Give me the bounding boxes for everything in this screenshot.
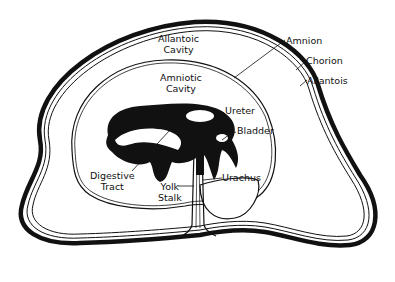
label-allantois: Allantois bbox=[307, 75, 348, 86]
label-urachus: Urachus bbox=[222, 172, 261, 183]
bladder-shape bbox=[186, 110, 214, 122]
allantois-sac bbox=[200, 178, 259, 219]
label-bladder: Bladder bbox=[237, 125, 274, 136]
label-allantoic-cavity: Allantoic Cavity bbox=[158, 33, 199, 55]
ureter-shape bbox=[216, 134, 228, 142]
label-chorion: Chorion bbox=[306, 55, 343, 66]
amnion-leader bbox=[234, 40, 285, 78]
label-digestive-tract: Digestive Tract bbox=[90, 170, 135, 192]
label-ureter: Ureter bbox=[225, 105, 255, 116]
label-amniotic-cavity: Amniotic Cavity bbox=[160, 72, 202, 94]
allantois-leader bbox=[300, 80, 307, 86]
label-amnion: Amnion bbox=[286, 35, 322, 46]
label-yolk-stalk: Yolk Stalk bbox=[158, 181, 182, 203]
